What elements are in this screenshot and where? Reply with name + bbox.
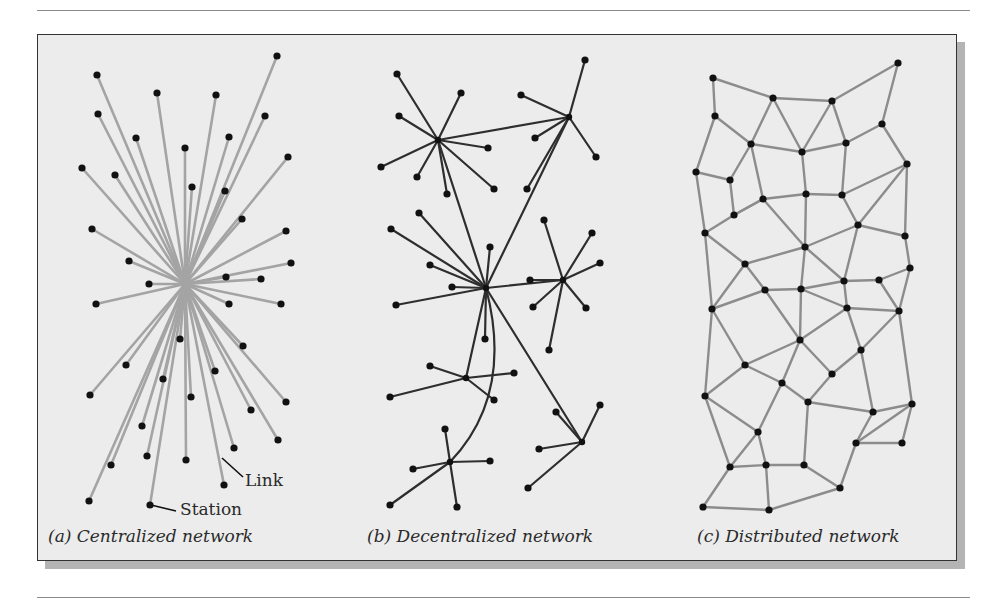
station-node <box>225 300 232 307</box>
station-node <box>225 133 232 140</box>
station-node <box>435 137 441 143</box>
station-node <box>778 379 785 386</box>
link <box>544 220 563 280</box>
link <box>696 172 705 233</box>
station-node <box>843 304 850 311</box>
station-node <box>828 97 835 104</box>
station-node <box>838 191 845 198</box>
link <box>808 374 832 402</box>
station-node <box>842 139 849 146</box>
station-node <box>741 361 748 368</box>
station-node <box>282 398 289 405</box>
link <box>782 383 808 402</box>
station-node <box>540 216 547 223</box>
station-node <box>426 362 433 369</box>
link <box>521 95 569 117</box>
hub-link <box>486 280 563 288</box>
link <box>730 432 758 467</box>
station-node <box>596 401 603 408</box>
station-node <box>111 171 118 178</box>
decentralized-network <box>377 56 603 510</box>
link <box>450 462 457 507</box>
station-node <box>132 134 139 141</box>
link <box>800 308 847 340</box>
station-node <box>701 392 708 399</box>
link <box>485 288 486 339</box>
link <box>569 117 596 157</box>
link <box>804 402 808 465</box>
station-node <box>552 408 559 415</box>
station-node <box>797 285 804 292</box>
station-label: Station <box>180 499 242 519</box>
link <box>713 78 715 116</box>
station-node <box>187 393 194 400</box>
link <box>861 311 899 350</box>
station-node <box>188 183 195 190</box>
link <box>805 225 858 247</box>
station-node <box>490 185 497 192</box>
station-node <box>486 243 493 250</box>
link <box>858 225 905 236</box>
station-node <box>239 342 246 349</box>
station-node <box>801 243 808 250</box>
link <box>712 309 745 365</box>
link <box>556 412 582 442</box>
station-node <box>762 461 769 468</box>
station-node <box>138 422 145 429</box>
station-node <box>409 465 416 472</box>
station-node <box>159 375 166 382</box>
link <box>800 289 801 340</box>
link <box>705 233 712 309</box>
network-diagrams <box>0 0 1000 601</box>
station-node <box>261 112 268 119</box>
link <box>758 432 766 465</box>
link <box>858 164 907 225</box>
station-node <box>747 140 754 147</box>
caption-decentralized: (b) Decentralized network <box>367 526 593 546</box>
station-node <box>726 176 733 183</box>
link <box>801 289 847 308</box>
station-node <box>802 190 809 197</box>
station-node <box>798 148 805 155</box>
link <box>713 78 773 98</box>
link <box>730 180 734 215</box>
link <box>705 233 745 264</box>
caption-centralized: (a) Centralized network <box>48 526 253 546</box>
station-node <box>212 91 219 98</box>
station-node <box>857 346 864 353</box>
station-node <box>287 259 294 266</box>
station-node <box>875 276 882 283</box>
link <box>861 350 873 412</box>
distributed-network <box>692 59 915 513</box>
station-node <box>560 277 566 283</box>
link <box>97 75 185 284</box>
link <box>751 98 773 144</box>
station-node <box>448 283 455 290</box>
station-node <box>125 257 132 264</box>
link <box>390 378 466 397</box>
station-node <box>529 303 536 310</box>
station-node <box>523 185 530 192</box>
link <box>879 268 910 280</box>
link <box>730 465 766 467</box>
link <box>730 144 751 180</box>
link <box>397 74 438 140</box>
station-node <box>153 89 160 96</box>
station-node <box>107 461 114 468</box>
station-node <box>447 459 453 465</box>
link <box>844 225 858 281</box>
station-node <box>247 406 254 413</box>
station-node <box>894 59 901 66</box>
station-leader-line <box>151 505 176 511</box>
centralized-network <box>78 52 294 508</box>
link <box>806 194 842 195</box>
station-node <box>754 428 761 435</box>
link <box>527 117 569 189</box>
station-node <box>145 280 152 287</box>
station-node <box>526 276 533 283</box>
station-node <box>761 286 768 293</box>
station-node <box>122 361 129 368</box>
station-node <box>895 307 902 314</box>
link <box>185 284 186 460</box>
station-node <box>483 285 489 291</box>
